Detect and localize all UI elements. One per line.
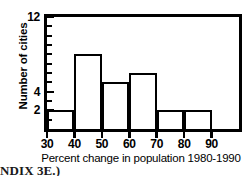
x-axis-tick-label: 70 — [144, 138, 170, 151]
histogram-figure: Number of cities 1242 30405060708090 Per… — [0, 0, 252, 176]
histogram-bar — [184, 110, 211, 129]
histogram-bar — [102, 82, 129, 129]
x-axis-tick-label: 60 — [116, 138, 142, 151]
histogram-bar — [157, 110, 184, 129]
y-axis-tick — [47, 81, 52, 83]
y-axis-tick — [47, 53, 52, 55]
y-axis-tick — [47, 35, 52, 37]
y-axis-tick — [47, 16, 54, 18]
y-axis-tick — [47, 63, 52, 65]
x-axis-tick-label: 80 — [171, 138, 197, 151]
y-axis-tick — [47, 44, 52, 46]
x-axis-tick-labels: 30405060708090 — [44, 138, 242, 152]
y-axis-tick — [47, 119, 52, 121]
plot-inner — [47, 17, 239, 129]
y-axis-tick — [47, 25, 52, 27]
y-axis-tick — [47, 91, 54, 93]
x-axis-tick-label: 90 — [199, 138, 225, 151]
plot-area — [44, 14, 242, 132]
y-axis-tick — [47, 100, 52, 102]
x-axis-tick-label: 30 — [34, 138, 60, 151]
caption-fragment: NDIX 3E.) — [0, 164, 130, 176]
x-axis-tick-label: 50 — [89, 138, 115, 151]
histogram-bar — [74, 54, 101, 129]
y-axis-tick-label: 2 — [18, 104, 40, 116]
y-axis-tick — [47, 109, 54, 111]
histogram-bar — [129, 73, 156, 129]
x-axis-tick-label: 40 — [61, 138, 87, 151]
y-axis-tick — [47, 72, 52, 74]
y-axis-tick-label: 4 — [18, 86, 40, 98]
y-axis-tick-label: 12 — [18, 11, 40, 23]
